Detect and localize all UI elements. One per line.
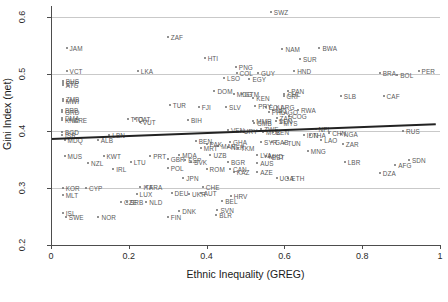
data-point (293, 70, 295, 72)
x-tick (284, 245, 285, 249)
data-point-label: AFG (398, 162, 411, 169)
data-point (233, 93, 235, 95)
y-tick-label: 0.4 (17, 125, 27, 138)
data-point (344, 161, 346, 163)
plot-area: SWZZAFJAMNAMBWAHTISURVCTLKAPNGCOLGUYHNDB… (51, 6, 440, 245)
x-axis-line (51, 245, 440, 246)
data-point (61, 111, 63, 113)
data-point-label: EGY (252, 75, 266, 82)
data-point-label: VUT (143, 119, 156, 126)
data-point (184, 159, 186, 161)
data-point-label: JAM (70, 44, 83, 51)
y-tick-label: 0.3 (17, 182, 27, 195)
data-point (139, 186, 141, 188)
x-tick-label: 0.2 (123, 251, 136, 261)
data-point-label: SUR (303, 55, 317, 62)
data-point-label: MNG (311, 147, 326, 154)
data-point-label: CRI (287, 92, 298, 99)
data-point-label: KEN (256, 95, 269, 102)
data-point-label: SLB (344, 92, 356, 99)
data-point (62, 84, 64, 86)
data-point-label: LSO (227, 74, 240, 81)
data-point-label: DZA (383, 169, 396, 176)
data-point-label: NLD (149, 198, 162, 205)
x-tick-label: 1 (437, 251, 442, 261)
data-point (167, 158, 169, 160)
data-point (252, 97, 254, 99)
scatter-chart: SWZZAFJAMNAMBWAHTISURVCTLKAPNGCOLGUYHNDB… (0, 0, 448, 302)
data-point-label: IRL (116, 165, 126, 172)
data-point (112, 168, 114, 170)
data-point-label: DNK (182, 207, 196, 214)
data-point (62, 187, 64, 189)
data-point (200, 147, 202, 149)
data-point (320, 139, 322, 141)
x-tick (129, 245, 130, 249)
data-point (318, 47, 320, 49)
data-point (270, 11, 272, 13)
y-axis-line (51, 6, 52, 245)
data-point-label: BIH (191, 117, 202, 124)
data-point (276, 117, 278, 119)
data-point (97, 139, 99, 141)
data-point (379, 172, 381, 174)
data-point (253, 122, 255, 124)
data-point-label: TUN (287, 140, 300, 147)
data-point-label: BRA (383, 69, 396, 76)
x-tick-label: 0.6 (278, 251, 291, 261)
data-point-label: RUS (406, 128, 420, 135)
data-point (167, 36, 169, 38)
data-point (145, 201, 147, 203)
data-point-label: LBR (348, 159, 361, 166)
data-point (134, 118, 136, 120)
data-point-label: LAO (324, 137, 337, 144)
data-point (229, 168, 231, 170)
data-point (126, 201, 128, 203)
data-point-label: BOL (400, 71, 413, 78)
data-point-label: MUS (68, 153, 83, 160)
data-point-label: AZE (260, 169, 273, 176)
data-point (260, 141, 262, 143)
data-point (225, 106, 227, 108)
data-point-label: NOR (101, 214, 116, 221)
data-point (223, 77, 225, 79)
data-point (280, 122, 282, 124)
data-point (256, 154, 258, 156)
data-point-label: BLR (219, 211, 232, 218)
data-point (85, 187, 87, 189)
x-axis-title: Ethnic Inequality (GREG) (51, 268, 440, 280)
data-point-label: ROM (210, 165, 225, 172)
data-point (394, 164, 396, 166)
data-point (256, 162, 258, 164)
data-point (137, 70, 139, 72)
data-point-label: NZL (91, 160, 103, 167)
data-point-label: PRT (153, 153, 166, 160)
data-point (275, 120, 277, 122)
data-point (120, 201, 122, 203)
y-tick (47, 17, 51, 18)
data-point-label: KOR (66, 185, 80, 192)
data-point (61, 119, 63, 121)
data-point-label: TKM (241, 145, 255, 152)
data-point (69, 119, 71, 121)
data-point-label: FJI (202, 103, 211, 110)
y-tick (47, 131, 51, 132)
data-point (204, 57, 206, 59)
data-point-label: LKA (141, 68, 153, 75)
data-point-label: SDN (412, 157, 426, 164)
y-tick-label: 0.2 (17, 239, 27, 252)
data-point (61, 109, 63, 111)
data-point-label: CYP (89, 184, 102, 191)
data-point-label: AUS (260, 160, 273, 167)
data-point (200, 192, 202, 194)
data-point (66, 70, 68, 72)
x-tick-label: 0.4 (200, 251, 213, 261)
data-point-label: NAM (285, 45, 300, 52)
data-point-label: CHN (332, 129, 346, 136)
data-point (396, 74, 398, 76)
data-point-label: ATG (66, 82, 79, 89)
data-point (62, 212, 64, 214)
data-point (309, 134, 311, 136)
data-point-label: VCT (70, 67, 83, 74)
data-point (190, 161, 192, 163)
